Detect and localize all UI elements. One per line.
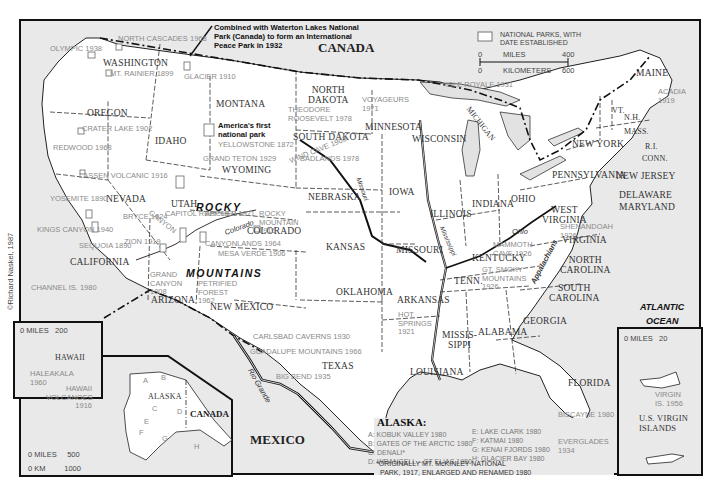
state-alaska: ALASKA bbox=[148, 393, 182, 401]
park-glacier: GLACIER 1910 bbox=[184, 73, 236, 82]
alaska-key-item: E: LAKE CLARK 1980 bbox=[472, 427, 550, 436]
hawaii-scale: 0 MILES 200 bbox=[20, 327, 68, 336]
alaska-key-title: ALASKA: bbox=[377, 417, 427, 428]
alaska-letter-g: G bbox=[162, 435, 168, 444]
state-missouri: MISSOURI bbox=[396, 246, 443, 256]
legend-miles-label: MILES bbox=[503, 51, 526, 60]
state-oklahoma: OKLAHOMA bbox=[336, 288, 393, 298]
state-massachusetts: MASS. bbox=[624, 128, 649, 136]
state-wyoming: WYOMING bbox=[222, 166, 271, 176]
state-alabama: ALABAMA bbox=[478, 328, 527, 338]
park-acadia: ACADIA 1919 bbox=[658, 88, 688, 105]
park-kings-canyon: KINGS CANYON 1940 bbox=[37, 226, 113, 235]
alaska-key-item: G: KENAI FJORDS 1980 bbox=[472, 445, 550, 454]
legend-km-label: KILOMETERS bbox=[503, 67, 551, 76]
park-biscayne: BISCAYNE 1980 bbox=[558, 411, 614, 420]
alaska-letter-h: H bbox=[194, 443, 199, 452]
state-idaho: IDAHO bbox=[155, 137, 187, 147]
national-parks-map: ©Richard Naskel, 1987 Combined with Wate… bbox=[0, 0, 708, 492]
state-north-carolina: NORTHCAROLINA bbox=[560, 255, 611, 276]
state-connecticut: CONN. bbox=[642, 155, 668, 163]
country-canada-alaska: CANADA bbox=[190, 410, 229, 419]
state-illinois: ILLINOIS bbox=[430, 210, 472, 220]
park-redwood: REDWOOD 1968 bbox=[53, 144, 112, 153]
credit-text: ©Richard Naskel, 1987 bbox=[6, 233, 15, 310]
state-montana: MONTANA bbox=[216, 100, 265, 110]
park-grand-canyon: GRAND CANYON 1908 bbox=[150, 271, 190, 297]
park-shenandoah: SHENANDOAH 1926 bbox=[560, 223, 614, 240]
state-north-dakota: NORTHDAKOTA bbox=[308, 86, 349, 106]
country-mexico: MEXICO bbox=[250, 433, 305, 446]
state-new-jersey: NEW JERSEY bbox=[616, 172, 676, 182]
state-maryland: MARYLAND bbox=[619, 203, 675, 213]
state-california: CALIFORNIA bbox=[70, 258, 130, 268]
alaska-key-item: A: KOBUK VALLEY 1980 bbox=[368, 430, 472, 439]
virgin-islands-title: U.S. VIRGINISLANDS bbox=[639, 414, 688, 434]
state-iowa: IOWA bbox=[389, 188, 415, 198]
legend-km-min: 0 bbox=[478, 67, 482, 76]
legend-miles-max: 400 bbox=[562, 51, 575, 60]
park-everglades: EVERGLADES 1934 bbox=[558, 438, 604, 455]
park-gt-smoky-mountains: GT. SMOKY MOUNTAINS 1926 bbox=[482, 266, 534, 292]
park-voyageurs: VOYAGEURS 1971 bbox=[362, 96, 400, 113]
park-olympic: OLYMPIC 1938 bbox=[50, 45, 102, 54]
park-yosemite: YOSEMITE 1890 bbox=[50, 195, 108, 204]
alaska-scale-miles: 0 MILES 500 bbox=[28, 451, 80, 460]
alaska-scale-km: 0 KM 1000 bbox=[28, 465, 81, 474]
alaska-letter-b: B bbox=[161, 374, 166, 383]
park-zion: ZION 1919 bbox=[124, 238, 161, 247]
country-canada: CANADA bbox=[318, 41, 374, 54]
state-oregon: OREGON bbox=[87, 109, 128, 119]
park-virgin-islands: VIRGIN IS. 1956 bbox=[655, 391, 685, 408]
state-ohio: OHIO bbox=[511, 195, 536, 205]
park-hawaii-volcanoes: HAWAII VOLCANOES 1916 bbox=[46, 385, 92, 411]
alaska-letter-d: D bbox=[177, 408, 182, 417]
state-hawaii: HAWAII bbox=[55, 354, 85, 362]
alaska-letter-f: F bbox=[139, 429, 144, 438]
state-mississippi: MISSIS-SIPPI bbox=[442, 330, 477, 351]
state-louisiana: LOUISIANA bbox=[410, 368, 464, 378]
state-washington: WASHINGTON bbox=[103, 59, 168, 69]
park-canyonlands: CANYONLANDS 1964 bbox=[205, 240, 281, 249]
park-north-cascades: NORTH CASCADES 1968 bbox=[118, 35, 207, 44]
alaska-letter-c: C bbox=[152, 405, 157, 414]
park-channel-islands: CHANNEL IS. 1980 bbox=[31, 284, 97, 293]
state-texas: TEXAS bbox=[322, 362, 354, 372]
park-lassen-volcanic: LASSEN VOLCANIC 1916 bbox=[79, 172, 168, 181]
legend-miles-min: 0 bbox=[478, 51, 482, 60]
ocean-atlantic: ATLANTICOCEAN bbox=[640, 300, 684, 329]
legend-national-parks: NATIONAL PARKS, WITH DATE ESTABLISHED bbox=[500, 31, 600, 47]
state-rhode-island: R.I. bbox=[645, 143, 658, 151]
park-carlsbad-caverns: CARLSBAD CAVERNS 1930 bbox=[253, 333, 350, 342]
alaska-key-item: C: DENALI* bbox=[368, 448, 472, 457]
state-florida: FLORIDA bbox=[568, 379, 611, 389]
state-georgia: GEORGIA bbox=[523, 317, 567, 327]
state-tennessee: TENN. bbox=[454, 277, 483, 287]
park-grand-teton: GRAND TETON 1929 bbox=[203, 155, 276, 164]
state-nevada: NEVADA bbox=[106, 195, 146, 205]
state-arkansas: ARKANSAS bbox=[397, 296, 450, 306]
park-isle-royale: ISLE ROYALE 1931 bbox=[446, 81, 513, 90]
state-south-carolina: SOUTHCAROLINA bbox=[549, 283, 600, 304]
park-yellowstone: YELLOWSTONE 1872 bbox=[218, 141, 294, 150]
park-guadalupe-mountains: GUADALUPE MOUNTAINS 1966 bbox=[250, 348, 362, 357]
alaska-letter-a: A bbox=[143, 377, 148, 386]
state-pennsylvania: PENNSYLVANIA bbox=[552, 171, 626, 181]
state-new-york: NEW YORK bbox=[572, 140, 624, 150]
park-petrified-forest: PETRIFIED FOREST 1962 bbox=[198, 280, 238, 306]
park-mammoth-cave: MAMMOTH CAVE 1926 bbox=[493, 241, 541, 258]
park-mt-rainier: MT. RAINIER 1899 bbox=[110, 70, 173, 79]
state-indiana: INDIANA bbox=[472, 200, 514, 210]
state-wisconsin: WISCONSIN bbox=[412, 135, 467, 145]
alaska-key-item: B: GATES OF THE ARCTIC 1980 bbox=[368, 439, 472, 448]
state-maine: MAINE bbox=[636, 69, 668, 79]
legend-km-max: 600 bbox=[562, 67, 575, 76]
park-big-bend: BIG BEND 1935 bbox=[276, 373, 331, 382]
park-badlands: BADLANDS 1978 bbox=[300, 155, 359, 164]
range-mountains: MOUNTAINS bbox=[186, 268, 262, 279]
state-minnesota: MINNESOTA bbox=[365, 123, 422, 133]
park-crater-lake: CRATER LAKE 1902 bbox=[82, 125, 152, 134]
alaska-key-item: F: KATMAI 1980 bbox=[472, 436, 550, 445]
state-nebraska: NEBRASKA bbox=[308, 193, 361, 203]
alaska-letter-e: E bbox=[144, 418, 149, 427]
